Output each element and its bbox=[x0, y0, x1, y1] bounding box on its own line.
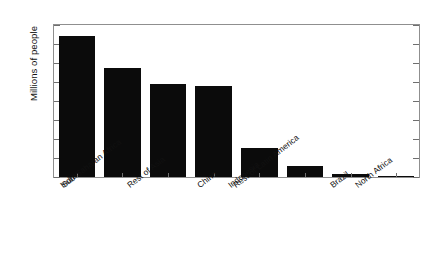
y-axis-tick-right bbox=[413, 44, 419, 45]
bar bbox=[59, 36, 96, 177]
bar bbox=[104, 68, 141, 177]
y-axis-title: Millions of people bbox=[28, 0, 39, 149]
x-axis-tick bbox=[396, 173, 397, 177]
x-axis-tick bbox=[122, 173, 123, 177]
y-axis-tick-right bbox=[413, 25, 419, 26]
y-axis-tick-right bbox=[413, 82, 419, 83]
y-axis-tick-right bbox=[413, 120, 419, 121]
bar-chart-figure: Millions of people 010020030040050060070… bbox=[0, 0, 437, 274]
y-axis-tick bbox=[54, 177, 60, 178]
bar bbox=[195, 86, 232, 177]
y-axis-tick-right bbox=[413, 63, 419, 64]
y-axis-tick bbox=[54, 25, 60, 26]
x-axis-tick bbox=[168, 173, 169, 177]
y-axis-tick-right bbox=[413, 139, 419, 140]
x-axis-tick bbox=[305, 173, 306, 177]
y-axis-tick-right bbox=[413, 177, 419, 178]
x-axis-tick bbox=[259, 173, 260, 177]
y-axis-tick-right bbox=[413, 101, 419, 102]
y-axis-tick-right bbox=[413, 158, 419, 159]
